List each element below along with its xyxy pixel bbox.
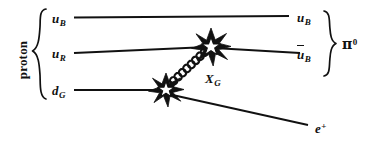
quark-line-u-B-spectator bbox=[74, 16, 289, 18]
quark-symbol: u bbox=[297, 47, 304, 62]
pion-label: π0 bbox=[342, 36, 357, 52]
quark-symbol: u bbox=[297, 10, 304, 25]
antiparticle-overbar: u bbox=[297, 45, 304, 62]
quark-subscript: R bbox=[60, 53, 66, 63]
quark-symbol: u bbox=[52, 46, 59, 61]
lepton-line-e-plus-outgoing bbox=[168, 94, 308, 125]
x-boson-label: XG bbox=[205, 70, 221, 88]
quark-symbol: u bbox=[52, 11, 59, 26]
antiquark-label-u-bar-B-out: uB bbox=[297, 45, 311, 64]
x-boson-subscript: G bbox=[214, 78, 221, 88]
quark-subscript: G bbox=[59, 90, 66, 100]
quark-label-u-B-out: uB bbox=[297, 9, 311, 27]
quark-subscript: B bbox=[60, 18, 66, 28]
proton-label: proton bbox=[15, 28, 31, 92]
quark-subscript: B bbox=[305, 17, 311, 27]
quark-line-u-bar-B-outgoing bbox=[214, 48, 300, 53]
quark-label-d-G-in: dG bbox=[52, 82, 66, 100]
x-boson-symbol: X bbox=[205, 71, 214, 86]
positron-symbol: e bbox=[315, 121, 321, 136]
lower-vertex-starburst bbox=[149, 73, 185, 107]
proton-brace bbox=[33, 9, 47, 99]
upper-vertex-starburst bbox=[192, 28, 232, 66]
quark-line-u-R-incoming bbox=[74, 47, 208, 53]
positron-label: e+ bbox=[315, 120, 326, 136]
quark-symbol: d bbox=[52, 83, 59, 98]
quark-label-u-B-in: uB bbox=[52, 10, 66, 28]
quark-label-u-R-in: uR bbox=[52, 45, 66, 63]
positron-superscript: + bbox=[321, 121, 326, 131]
pion-brace bbox=[324, 11, 336, 76]
pion-superscript: 0 bbox=[353, 37, 358, 47]
pion-symbol: π bbox=[342, 36, 352, 52]
feynman-diagram-figure: proton uB uR dG uB uB π0 XG e+ bbox=[0, 0, 367, 145]
quark-subscript: B bbox=[305, 54, 311, 64]
